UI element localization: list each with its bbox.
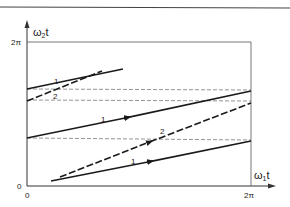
label-lower-2: 2	[160, 127, 165, 136]
y-tick-2pi: 2π	[11, 38, 21, 47]
label-upper-2: 2	[53, 92, 58, 101]
trajectory-1-lower-b	[151, 141, 251, 161]
label-upper-1: 1	[54, 77, 59, 86]
y-tick-0: 0	[17, 182, 22, 191]
x-axis-arrow-icon	[268, 184, 276, 189]
trajectory-2-lower-a	[60, 141, 152, 177]
label-middle-1: 1	[101, 115, 106, 124]
y-axis-label: ω2t	[33, 26, 49, 39]
y-axis-arrow-icon	[25, 20, 30, 28]
label-lower-1: 1	[131, 157, 136, 166]
x-axis	[27, 184, 276, 189]
x-tick-0: 0	[25, 191, 30, 200]
dashed-guide-3	[27, 138, 251, 140]
trajectory-1-middle-b	[128, 91, 251, 117]
dashed-guide-2	[27, 100, 251, 101]
x-axis-label: ω1t	[254, 169, 270, 182]
y-axis	[25, 20, 30, 186]
torus-trajectory-diagram: 1 2 1 2 1 ω2t ω1t 2π 0 0 2π	[0, 0, 290, 207]
trajectory-1-lower-a	[51, 161, 153, 181]
dashed-guide-1	[27, 89, 251, 90]
x-tick-2pi: 2π	[244, 191, 254, 200]
trajectory-1-upper	[27, 69, 123, 89]
top-rule	[0, 7, 290, 8]
trajectory-1-middle-a	[27, 117, 130, 138]
